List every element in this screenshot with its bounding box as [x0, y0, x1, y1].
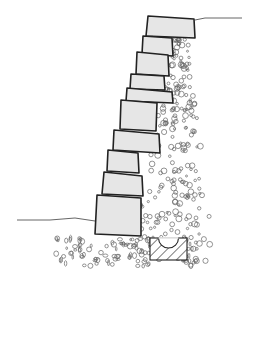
- drain-pipe-icon: [150, 238, 187, 260]
- wall-blocks: [95, 16, 195, 236]
- retaining-wall-diagram: [0, 0, 253, 346]
